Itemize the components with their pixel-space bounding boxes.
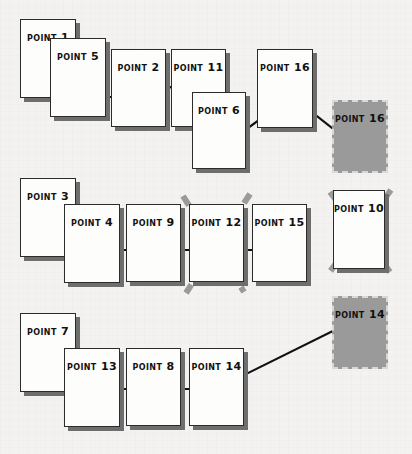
card-number: 5 [87,50,99,63]
card-point-5[interactable]: POINT 5 [50,38,106,117]
card-label: POINT 3 [21,190,75,203]
ghost-card-point-16[interactable]: POINT 16 [332,100,388,173]
card-label: POINT 4 [65,216,119,229]
card-number: 15 [284,216,304,229]
card-label: POINT 16 [334,112,386,125]
card-label: POINT 12 [190,216,243,229]
card-point-14[interactable]: POINT 14 [189,348,244,426]
card-number: 2 [147,61,159,74]
card-number: 16 [365,112,385,125]
card-label: POINT 16 [258,61,312,74]
card-number: 3 [57,190,69,203]
diagram-canvas: POINT 1POINT 5POINT 2POINT 11POINT 6POIN… [0,0,412,454]
card-point-6[interactable]: POINT 6 [192,92,246,169]
card-number: 16 [290,61,310,74]
card-point-2[interactable]: POINT 2 [111,49,166,127]
card-number: 8 [162,360,174,373]
card-label: POINT 14 [190,360,243,373]
card-number: 6 [228,104,240,117]
card-point-10[interactable]: POINT 10 [333,190,385,269]
card-point-12[interactable]: POINT 12 [189,204,244,282]
card-label: POINT 8 [127,360,180,373]
card-point-4[interactable]: POINT 4 [64,204,120,283]
card-label: POINT 11 [172,61,225,74]
card-label: POINT 13 [65,360,119,373]
card-number: 9 [162,216,174,229]
card-number: 14 [221,360,241,373]
card-point-9[interactable]: POINT 9 [126,204,181,282]
card-number: 12 [221,216,241,229]
card-point-13[interactable]: POINT 13 [64,348,120,427]
card-number: 10 [364,202,384,215]
card-label: POINT 5 [51,50,105,63]
card-number: 11 [203,61,223,74]
card-number: 14 [365,308,385,321]
card-number: 13 [97,360,117,373]
card-label: POINT 10 [334,202,384,215]
card-number: 7 [57,325,69,338]
card-label: POINT 15 [253,216,306,229]
card-label: POINT 2 [112,61,165,74]
card-point-16[interactable]: POINT 16 [257,49,313,128]
ghost-card-point-14[interactable]: POINT 14 [332,296,388,369]
card-label: POINT 9 [127,216,180,229]
card-point-8[interactable]: POINT 8 [126,348,181,426]
card-label: POINT 14 [334,308,386,321]
card-number: 4 [101,216,113,229]
card-label: POINT 6 [193,104,245,117]
card-label: POINT 7 [21,325,75,338]
card-point-15[interactable]: POINT 15 [252,204,307,282]
